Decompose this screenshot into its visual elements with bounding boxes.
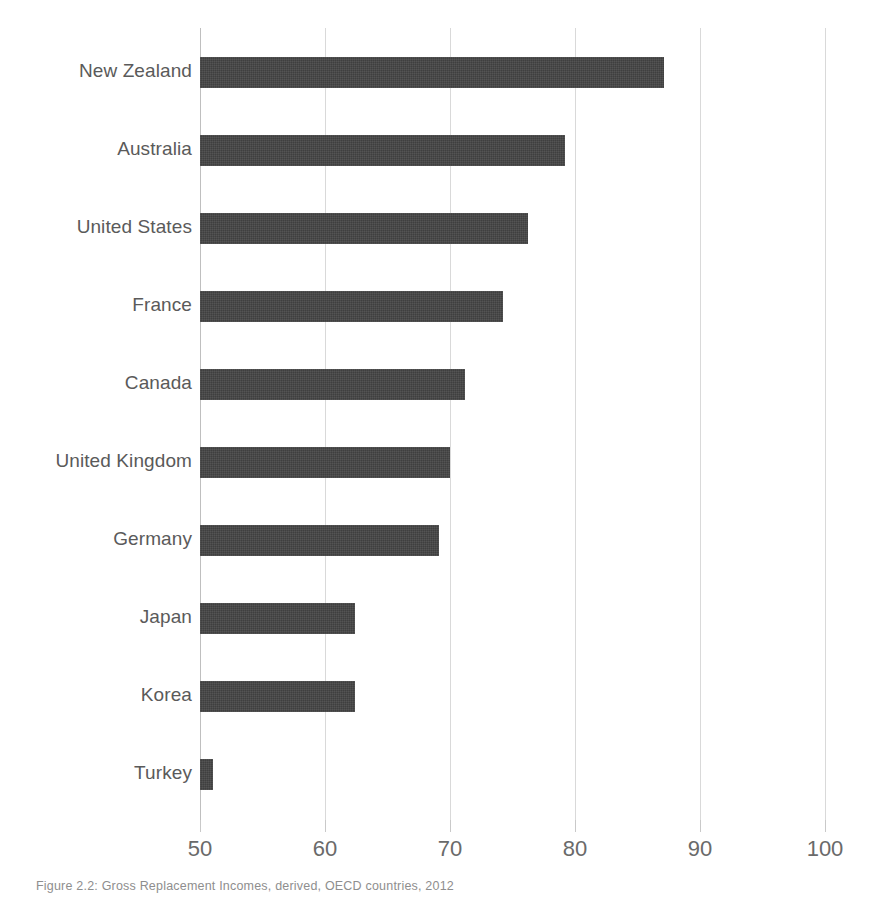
category-label-australia: Australia: [2, 138, 192, 160]
bar-germany: [200, 525, 439, 556]
category-label-turkey: Turkey: [2, 762, 192, 784]
category-label-canada: Canada: [2, 372, 192, 394]
tick-mark-70: [450, 820, 451, 832]
gridline-90: [700, 28, 701, 820]
x-tick-label-50: 50: [188, 836, 212, 862]
x-tick-label-60: 60: [313, 836, 337, 862]
category-label-korea: Korea: [2, 684, 192, 706]
bar-korea: [200, 681, 355, 712]
bar-australia: [200, 135, 565, 166]
gridline-80: [575, 28, 576, 820]
figure-caption: Figure 2.2: Gross Replacement Incomes, d…: [36, 879, 454, 893]
x-tick-label-70: 70: [438, 836, 462, 862]
bar-france: [200, 291, 503, 322]
x-tick-label-80: 80: [563, 836, 587, 862]
tick-mark-80: [575, 820, 576, 832]
category-label-germany: Germany: [2, 528, 192, 550]
category-label-japan: Japan: [2, 606, 192, 628]
tick-mark-60: [325, 820, 326, 832]
bar-chart-figure: New ZealandAustraliaUnited StatesFranceC…: [0, 0, 876, 899]
plot-area: [200, 28, 825, 820]
gridline-100: [825, 28, 826, 820]
category-label-united-kingdom: United Kingdom: [2, 450, 192, 472]
tick-mark-50: [200, 820, 201, 832]
tick-mark-90: [700, 820, 701, 832]
x-tick-label-90: 90: [688, 836, 712, 862]
bar-turkey: [200, 759, 213, 790]
category-label-united-states: United States: [2, 216, 192, 238]
bar-new-zealand: [200, 57, 664, 88]
bar-canada: [200, 369, 465, 400]
tick-mark-100: [825, 820, 826, 832]
category-label-france: France: [2, 294, 192, 316]
x-tick-label-100: 100: [807, 836, 844, 862]
category-label-new-zealand: New Zealand: [2, 60, 192, 82]
bar-japan: [200, 603, 355, 634]
y-axis-category-labels: New ZealandAustraliaUnited StatesFranceC…: [0, 28, 192, 820]
bar-united-states: [200, 213, 528, 244]
bar-united-kingdom: [200, 447, 450, 478]
